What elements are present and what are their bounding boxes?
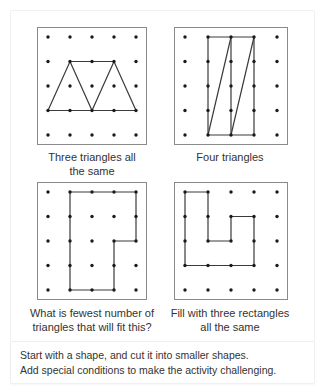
grid-dot	[112, 109, 115, 112]
grid-dot	[134, 264, 137, 267]
grid-dot	[134, 109, 137, 112]
grid-dot	[112, 35, 115, 38]
instructions-line-2: Add special conditions to make the activ…	[20, 363, 276, 377]
grid-dot	[90, 190, 93, 193]
grid-dot	[46, 215, 49, 218]
grid-dot	[46, 84, 49, 87]
geoboard-diagram	[175, 183, 287, 299]
grid-dot	[112, 215, 115, 218]
caption-line: all the same	[160, 320, 300, 334]
grid-dot	[206, 215, 209, 218]
instructions-line-1: Start with a shape, and cut it into smal…	[20, 348, 249, 362]
grid-dot	[252, 215, 255, 218]
grid-dot	[206, 84, 209, 87]
grid-dot	[90, 84, 93, 87]
grid-dot	[183, 239, 186, 242]
grid-dot	[90, 239, 93, 242]
grid-dot	[229, 190, 232, 193]
grid-dot	[134, 133, 137, 136]
grid-dot	[68, 190, 71, 193]
grid-dot	[183, 215, 186, 218]
geoboard-three-rectangles	[174, 182, 288, 300]
grid-dot	[252, 288, 255, 291]
grid-dot	[252, 109, 255, 112]
grid-dot	[134, 239, 137, 242]
grid-dot	[112, 84, 115, 87]
grid-dot	[252, 264, 255, 267]
grid-dot	[134, 215, 137, 218]
grid-dot	[229, 84, 232, 87]
grid-dot	[252, 133, 255, 136]
grid-dot	[112, 264, 115, 267]
grid-dot	[252, 190, 255, 193]
grid-dot	[183, 84, 186, 87]
grid-dot	[229, 109, 232, 112]
grid-dot	[134, 288, 137, 291]
grid-dot	[252, 60, 255, 63]
grid-dot	[68, 264, 71, 267]
grid-dot	[68, 60, 71, 63]
grid-dot	[134, 35, 137, 38]
grid-dot	[134, 190, 137, 193]
grid-dot	[68, 133, 71, 136]
grid-dot	[90, 133, 93, 136]
grid-dot	[68, 35, 71, 38]
grid-dot	[275, 35, 278, 38]
grid-dot	[206, 190, 209, 193]
shape-outline	[231, 37, 254, 135]
grid-dot	[90, 109, 93, 112]
grid-dot	[46, 239, 49, 242]
grid-dot	[206, 109, 209, 112]
grid-dot	[46, 35, 49, 38]
grid-dot	[134, 60, 137, 63]
grid-dot	[275, 288, 278, 291]
grid-dot	[112, 239, 115, 242]
grid-dot	[206, 35, 209, 38]
grid-dot	[206, 288, 209, 291]
grid-dot	[90, 60, 93, 63]
grid-dot	[275, 84, 278, 87]
grid-dot	[206, 133, 209, 136]
grid-dot	[229, 60, 232, 63]
grid-dot	[229, 288, 232, 291]
geoboard-fewest-triangles	[37, 182, 147, 300]
grid-dot	[68, 215, 71, 218]
caption-line: triangles that will fit this?	[22, 320, 162, 334]
geoboard-diagram	[175, 28, 287, 144]
caption-line: Fill with three rectangles	[160, 306, 300, 320]
grid-dot	[112, 190, 115, 193]
grid-dot	[90, 35, 93, 38]
caption-line: Three triangles all	[30, 150, 154, 164]
shape-outline	[185, 192, 254, 266]
geoboard-four-triangles	[174, 27, 288, 145]
grid-dot	[229, 264, 232, 267]
caption-line: What is fewest number of	[22, 306, 162, 320]
grid-dot	[90, 288, 93, 291]
caption-line: the same	[30, 164, 154, 178]
caption-line: Four triangles	[168, 150, 292, 164]
grid-dot	[229, 133, 232, 136]
grid-dot	[183, 288, 186, 291]
grid-dot	[183, 190, 186, 193]
caption-three-triangles: Three triangles all the same	[30, 150, 154, 178]
grid-dot	[46, 133, 49, 136]
grid-dot	[46, 288, 49, 291]
grid-dot	[229, 215, 232, 218]
grid-dot	[252, 35, 255, 38]
grid-dot	[275, 264, 278, 267]
grid-dot	[183, 60, 186, 63]
grid-dot	[206, 60, 209, 63]
grid-dot	[275, 215, 278, 218]
caption-four-triangles: Four triangles	[168, 150, 292, 164]
grid-dot	[46, 60, 49, 63]
grid-dot	[90, 215, 93, 218]
grid-dot	[252, 84, 255, 87]
grid-dot	[183, 264, 186, 267]
grid-dot	[252, 239, 255, 242]
geoboard-diagram	[38, 28, 146, 144]
grid-dot	[275, 239, 278, 242]
grid-dot	[206, 264, 209, 267]
caption-three-rectangles: Fill with three rectangles all the same	[160, 306, 300, 334]
grid-dot	[183, 35, 186, 38]
grid-dot	[275, 133, 278, 136]
